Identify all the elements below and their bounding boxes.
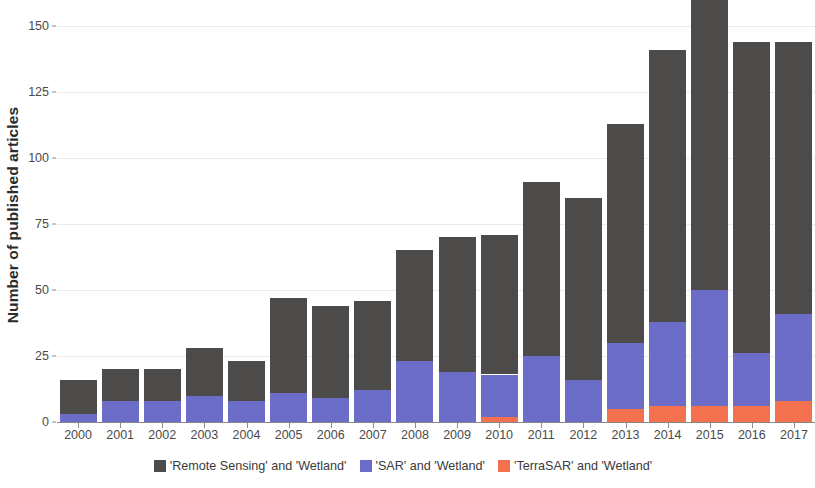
bar-segment[interactable]: [186, 396, 223, 422]
bar-group[interactable]: [691, 0, 728, 422]
plot-area: 0255075100125150: [57, 8, 815, 422]
bar-segment[interactable]: [60, 414, 97, 422]
bar-group[interactable]: [312, 306, 349, 422]
bar-group[interactable]: [396, 250, 433, 422]
x-tick-label: 2005: [266, 428, 312, 442]
bar-group[interactable]: [228, 361, 265, 422]
bar-group[interactable]: [60, 380, 97, 422]
bar-segment[interactable]: [607, 409, 644, 422]
bar-segment[interactable]: [649, 50, 686, 322]
bar-group[interactable]: [481, 235, 518, 422]
x-tick-label: 2011: [518, 428, 564, 442]
x-tick-label: 2012: [560, 428, 606, 442]
x-tick-label: 2017: [771, 428, 815, 442]
bar-segment[interactable]: [102, 369, 139, 401]
bar-segment[interactable]: [733, 353, 770, 406]
legend-item[interactable]: 'TerraSAR' and 'Wetland': [498, 459, 652, 473]
y-tick-label: 125: [3, 85, 49, 99]
bar-segment[interactable]: [144, 401, 181, 422]
x-tick-label: 2003: [181, 428, 227, 442]
bar-segment[interactable]: [439, 372, 476, 422]
y-tick-label: 100: [3, 151, 49, 165]
y-tick-mark: [52, 422, 56, 423]
bar-segment[interactable]: [607, 124, 644, 343]
bar-group[interactable]: [607, 124, 644, 422]
bar-segment[interactable]: [354, 301, 391, 391]
x-tick-label: 2010: [476, 428, 522, 442]
bar-group[interactable]: [270, 298, 307, 422]
bar-segment[interactable]: [523, 356, 560, 422]
bar-segment[interactable]: [144, 369, 181, 401]
bar-group[interactable]: [439, 237, 476, 422]
y-tick-mark: [52, 290, 56, 291]
bar-group[interactable]: [649, 50, 686, 422]
bar-segment[interactable]: [481, 235, 518, 375]
x-tick-label: 2009: [434, 428, 480, 442]
bar-segment[interactable]: [733, 42, 770, 354]
bar-segment[interactable]: [649, 322, 686, 406]
bar-group[interactable]: [186, 348, 223, 422]
bar-segment[interactable]: [60, 380, 97, 414]
x-tick-label: 2007: [350, 428, 396, 442]
legend-label: 'SAR' and 'Wetland': [376, 459, 486, 473]
bar-group[interactable]: [144, 369, 181, 422]
legend-label: 'TerraSAR' and 'Wetland': [514, 459, 652, 473]
bar-group[interactable]: [565, 198, 602, 422]
bar-segment[interactable]: [649, 406, 686, 422]
x-axis-line: [57, 422, 815, 423]
bar-segment[interactable]: [523, 182, 560, 356]
bar-segment[interactable]: [691, 0, 728, 290]
y-tick-label: 150: [3, 19, 49, 33]
legend-swatch-icon: [360, 460, 372, 472]
x-tick-label: 2013: [603, 428, 649, 442]
bar-segment[interactable]: [312, 306, 349, 398]
legend-swatch-icon: [498, 460, 510, 472]
x-tick-label: 2004: [224, 428, 270, 442]
x-tick-label: 2016: [729, 428, 775, 442]
bar-segment[interactable]: [102, 401, 139, 422]
bar-segment[interactable]: [439, 237, 476, 372]
bar-segment[interactable]: [312, 398, 349, 422]
bar-segment[interactable]: [691, 290, 728, 406]
bar-segment[interactable]: [775, 401, 812, 422]
bar-segment[interactable]: [270, 393, 307, 422]
bar-segment[interactable]: [228, 401, 265, 422]
x-tick-label: 2001: [97, 428, 143, 442]
bar-segment[interactable]: [691, 406, 728, 422]
legend-item[interactable]: 'SAR' and 'Wetland': [360, 459, 486, 473]
bar-group[interactable]: [775, 42, 812, 422]
bar-group[interactable]: [523, 182, 560, 422]
bar-segment[interactable]: [396, 250, 433, 361]
y-tick-label: 75: [3, 217, 49, 231]
bar-segment[interactable]: [186, 348, 223, 396]
x-tick-label: 2000: [55, 428, 101, 442]
y-tick-mark: [52, 92, 56, 93]
bar-segment[interactable]: [396, 361, 433, 422]
bar-segment[interactable]: [270, 298, 307, 393]
bar-group[interactable]: [733, 42, 770, 422]
y-tick-mark: [52, 356, 56, 357]
chart-legend: 'Remote Sensing' and 'Wetland''SAR' and …: [0, 459, 815, 473]
bar-segment[interactable]: [565, 380, 602, 422]
bar-segment[interactable]: [733, 406, 770, 422]
x-tick-label: 2014: [645, 428, 691, 442]
bar-segment[interactable]: [354, 390, 391, 422]
x-tick-label: 2002: [139, 428, 185, 442]
y-tick-mark: [52, 26, 56, 27]
bar-segment[interactable]: [565, 198, 602, 380]
legend-item[interactable]: 'Remote Sensing' and 'Wetland': [154, 459, 347, 473]
bar-group[interactable]: [102, 369, 139, 422]
bar-group[interactable]: [354, 301, 391, 422]
legend-swatch-icon: [154, 460, 166, 472]
bar-segment[interactable]: [607, 343, 644, 409]
stacked-bar-chart: Number of published articles 02550751001…: [0, 0, 815, 488]
bar-segment[interactable]: [228, 361, 265, 401]
y-tick-label: 0: [3, 415, 49, 429]
bar-segment[interactable]: [775, 314, 812, 401]
bar-segment[interactable]: [481, 375, 518, 417]
bar-segment[interactable]: [775, 42, 812, 314]
y-tick-label: 25: [3, 349, 49, 363]
x-tick-label: 2006: [308, 428, 354, 442]
y-tick-mark: [52, 224, 56, 225]
y-tick-mark: [52, 158, 56, 159]
